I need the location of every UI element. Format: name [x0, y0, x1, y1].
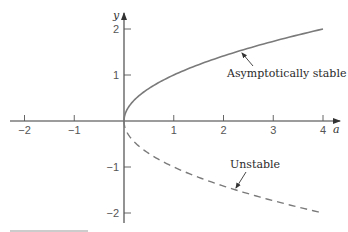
bifurcation-chart: −2−11234 21−1−2 a y Asymptotically stabl… — [0, 0, 348, 232]
x-ticks: −2−11234 — [18, 115, 326, 136]
x-tick-label: 4 — [320, 124, 326, 136]
x-tick-label: 1 — [171, 124, 177, 136]
x-tick-label: 2 — [220, 124, 226, 136]
unstable-leader-arrow — [236, 172, 246, 188]
unstable-annotation: Unstable — [230, 158, 280, 171]
y-tick-label: −2 — [106, 207, 119, 219]
y-tick-label: 1 — [113, 69, 119, 81]
x-tick-label: 3 — [270, 124, 276, 136]
y-tick-label: −1 — [106, 161, 119, 173]
x-tick-label: −2 — [18, 124, 31, 136]
y-tick-label: 2 — [113, 23, 119, 35]
stable-annotation: Asymptotically stable — [226, 67, 346, 80]
stable-leader-arrow — [242, 53, 253, 66]
x-tick-label: −1 — [68, 124, 81, 136]
x-axis-label: a — [333, 123, 340, 136]
y-axis-label: y — [112, 9, 120, 22]
